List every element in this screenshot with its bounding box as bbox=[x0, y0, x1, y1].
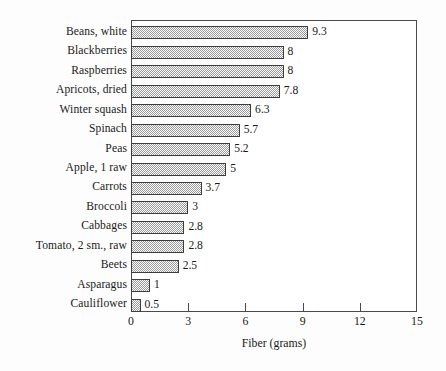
category-label: Asparagus bbox=[0, 279, 127, 291]
bar[interactable] bbox=[131, 182, 202, 195]
bar-value-label: 5.7 bbox=[244, 123, 259, 137]
bar-row[interactable]: 9.3 bbox=[131, 26, 417, 39]
category-label: Tomato, 2 sm., raw bbox=[0, 240, 127, 252]
bar-value-label: 8 bbox=[288, 64, 294, 78]
fiber-bar-chart: Beans, whiteBlackberriesRaspberriesApric… bbox=[0, 0, 446, 371]
category-label: Carrots bbox=[0, 181, 127, 193]
bar-row[interactable]: 7.8 bbox=[131, 85, 417, 98]
x-tick-label: 6 bbox=[242, 314, 248, 329]
bar-row[interactable]: 2.8 bbox=[131, 240, 417, 253]
category-label: Beets bbox=[0, 259, 127, 271]
bar[interactable] bbox=[131, 46, 284, 59]
bar-value-label: 6.3 bbox=[255, 103, 270, 117]
x-axis-title: Fiber (grams) bbox=[131, 336, 417, 351]
category-label: Apricots, dried bbox=[0, 84, 127, 96]
bar-row[interactable]: 2.8 bbox=[131, 221, 417, 234]
bar-row[interactable]: 8 bbox=[131, 46, 417, 59]
x-tick-label: 0 bbox=[128, 314, 134, 329]
x-tick-mark bbox=[360, 303, 361, 312]
bar-row[interactable]: 6.3 bbox=[131, 104, 417, 117]
bar-value-label: 5.2 bbox=[234, 142, 249, 156]
x-tick-label: 9 bbox=[300, 314, 306, 329]
x-tick-label: 15 bbox=[411, 314, 423, 329]
bars-layer: 9.3887.86.35.75.253.732.82.82.510.5 bbox=[131, 20, 417, 312]
bar[interactable] bbox=[131, 163, 226, 176]
x-tick-label: 3 bbox=[185, 314, 191, 329]
bar-value-label: 3 bbox=[192, 200, 198, 214]
bar-value-label: 2.8 bbox=[188, 220, 203, 234]
bar-value-label: 8 bbox=[288, 45, 294, 59]
bar-value-label: 3.7 bbox=[206, 181, 221, 195]
bar[interactable] bbox=[131, 279, 150, 292]
bar[interactable] bbox=[131, 85, 280, 98]
category-label: Cauliflower bbox=[0, 298, 127, 310]
bar-row[interactable]: 5 bbox=[131, 163, 417, 176]
category-label: Cabbages bbox=[0, 220, 127, 232]
x-tick-mark bbox=[416, 303, 417, 312]
bar[interactable] bbox=[131, 201, 188, 214]
bar-row[interactable]: 5.2 bbox=[131, 143, 417, 156]
bar-row[interactable]: 8 bbox=[131, 65, 417, 78]
bar-row[interactable]: 1 bbox=[131, 279, 417, 292]
bar-value-label: 9.3 bbox=[312, 25, 327, 39]
bar-row[interactable]: 3.7 bbox=[131, 182, 417, 195]
category-label: Beans, white bbox=[0, 26, 127, 38]
bar[interactable] bbox=[131, 240, 184, 253]
category-label: Blackberries bbox=[0, 45, 127, 57]
bar-value-label: 5 bbox=[230, 162, 236, 176]
bar-row[interactable]: 3 bbox=[131, 201, 417, 214]
bar-row[interactable]: 5.7 bbox=[131, 124, 417, 137]
bar-value-label: 2.5 bbox=[183, 259, 198, 273]
bar-row[interactable]: 2.5 bbox=[131, 260, 417, 273]
category-label: Spinach bbox=[0, 123, 127, 135]
category-label: Raspberries bbox=[0, 65, 127, 77]
x-axis-tick-marks bbox=[131, 303, 417, 313]
category-label: Apple, 1 raw bbox=[0, 162, 127, 174]
bar-value-label: 1 bbox=[154, 278, 160, 292]
bar-value-label: 7.8 bbox=[284, 84, 299, 98]
category-label: Winter squash bbox=[0, 104, 127, 116]
bar-value-label: 2.8 bbox=[188, 239, 203, 253]
category-label: Peas bbox=[0, 143, 127, 155]
x-tick-label: 12 bbox=[354, 314, 366, 329]
category-label: Broccoli bbox=[0, 201, 127, 213]
bar[interactable] bbox=[131, 260, 179, 273]
x-tick-mark bbox=[188, 303, 189, 312]
bar[interactable] bbox=[131, 221, 184, 234]
bar[interactable] bbox=[131, 65, 284, 78]
bar[interactable] bbox=[131, 104, 251, 117]
category-axis: Beans, whiteBlackberriesRaspberriesApric… bbox=[0, 20, 127, 312]
bar[interactable] bbox=[131, 124, 240, 137]
x-tick-mark bbox=[303, 303, 304, 312]
x-axis-tick-labels: 03691215 bbox=[131, 314, 417, 332]
bar[interactable] bbox=[131, 26, 308, 39]
x-tick-mark bbox=[245, 303, 246, 312]
bar[interactable] bbox=[131, 143, 230, 156]
